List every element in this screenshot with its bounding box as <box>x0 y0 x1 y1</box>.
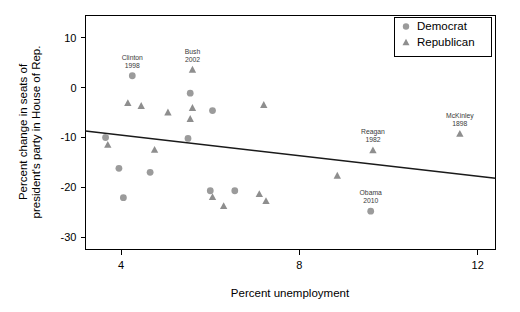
data-point-republican[interactable] <box>220 202 227 209</box>
y-tick-label: -10 <box>61 131 77 143</box>
x-tick-label: 8 <box>296 259 302 271</box>
x-tick-label: 12 <box>472 259 484 271</box>
point-annotation: 2002 <box>185 56 200 63</box>
data-point-republican[interactable] <box>256 190 263 197</box>
data-point-democrat[interactable] <box>147 169 154 176</box>
data-point-democrat[interactable] <box>116 165 123 172</box>
plot-svg: 100-10-20-30 4812 Clinton1998Obama2010Bu… <box>0 0 520 312</box>
data-point-democrat[interactable] <box>129 72 136 79</box>
data-point-republican[interactable] <box>187 115 194 122</box>
point-annotation: Clinton <box>122 54 143 61</box>
data-point-democrat[interactable] <box>209 107 216 114</box>
y-axis-title-line-2: president's party in House of Rep. <box>30 46 42 219</box>
data-point-republican[interactable] <box>124 99 131 106</box>
data-point-democrat[interactable] <box>367 208 374 215</box>
data-point-democrat[interactable] <box>207 187 214 194</box>
y-tick-label: -30 <box>61 231 77 243</box>
data-point-democrat[interactable] <box>231 187 238 194</box>
point-labels-group: Clinton1998Obama2010Bush2002Reagan1982Mc… <box>122 48 475 204</box>
point-annotation: 1982 <box>365 136 380 143</box>
x-axis-title: Percent unemployment <box>231 287 350 299</box>
data-point-republican[interactable] <box>138 102 145 109</box>
data-point-republican[interactable] <box>456 130 463 137</box>
point-annotation: 2010 <box>363 197 378 204</box>
x-axis-ticks: 4812 <box>118 250 484 271</box>
scatter-plot-figure: 100-10-20-30 4812 Clinton1998Obama2010Bu… <box>0 0 520 312</box>
data-point-republican[interactable] <box>369 146 376 153</box>
point-annotation: Bush <box>185 48 201 55</box>
data-point-republican[interactable] <box>209 193 216 200</box>
data-point-republican[interactable] <box>262 197 269 204</box>
data-point-republican[interactable] <box>189 104 196 111</box>
data-point-democrat[interactable] <box>102 134 109 141</box>
legend[interactable]: DemocratRepublican <box>395 18 492 57</box>
y-tick-label: -20 <box>61 181 77 193</box>
y-axis-title-line-1: Percent change in seats of <box>17 63 29 200</box>
legend-label-republican: Republican <box>417 36 475 48</box>
point-annotation: 1998 <box>125 62 140 69</box>
y-axis-title-group: Percent change in seats of president's p… <box>17 46 42 219</box>
data-point-republican[interactable] <box>104 141 111 148</box>
point-annotation: Obama <box>360 189 383 196</box>
data-point-democrat[interactable] <box>185 135 192 142</box>
y-axis-ticks: 100-10-20-30 <box>61 32 86 243</box>
data-point-republican[interactable] <box>334 172 341 179</box>
point-annotation: McKinley <box>446 112 474 120</box>
y-tick-label: 10 <box>64 32 76 44</box>
legend-label-democrat: Democrat <box>417 20 468 32</box>
data-point-republican[interactable] <box>189 66 196 73</box>
y-tick-label: 0 <box>70 82 76 94</box>
data-points-group <box>102 66 463 215</box>
x-tick-label: 4 <box>118 259 124 271</box>
data-point-democrat[interactable] <box>187 90 194 97</box>
point-annotation: Reagan <box>361 128 385 136</box>
point-annotation: 1898 <box>452 120 467 127</box>
data-point-democrat[interactable] <box>120 194 127 201</box>
data-point-republican[interactable] <box>151 146 158 153</box>
legend-marker-democrat <box>403 23 409 29</box>
data-point-republican[interactable] <box>164 109 171 116</box>
data-point-republican[interactable] <box>260 101 267 108</box>
